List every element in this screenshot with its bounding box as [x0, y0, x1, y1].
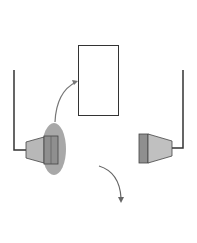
left-wall	[14, 70, 26, 150]
right-transducer	[139, 134, 172, 163]
right-transducer-cone	[148, 134, 172, 163]
left-transducer-cone	[26, 137, 44, 163]
right-wall	[172, 70, 183, 148]
echo-diagram	[0, 0, 197, 243]
sensor-disk-inset	[79, 46, 119, 116]
right-transducer-disk	[139, 134, 148, 163]
inset-frame	[79, 46, 119, 116]
left-transducer	[26, 123, 66, 175]
callout-arrow-to-bottom-label	[99, 166, 121, 198]
callout-arrow-to-inset	[55, 82, 76, 122]
callout-arrowhead-down	[118, 197, 124, 203]
